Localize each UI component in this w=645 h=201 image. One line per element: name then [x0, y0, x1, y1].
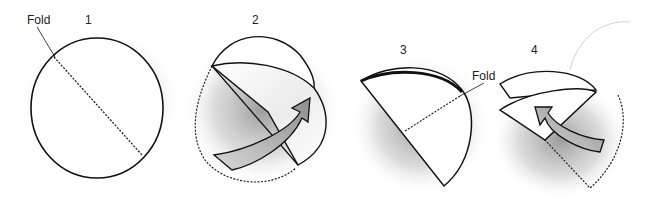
step-number: 2 [252, 13, 259, 27]
step-number: 1 [85, 13, 92, 27]
step-1: Fold 1 [18, 13, 182, 178]
thread-line [570, 22, 630, 70]
folding-diagram: Fold 1 2 Fold 3 4 [0, 0, 645, 201]
fold-label: Fold [472, 69, 495, 83]
paper-circle [31, 38, 163, 178]
step-2: 2 [182, 13, 342, 185]
step-3: Fold 3 [350, 43, 495, 195]
fold-label: Fold [27, 13, 50, 27]
step-4: 4 [490, 22, 630, 200]
step-number: 4 [531, 43, 538, 57]
step-number: 3 [400, 43, 407, 57]
